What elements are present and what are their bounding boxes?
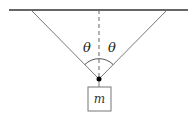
angle-label-left: θ xyxy=(83,40,91,55)
angle-label-right: θ xyxy=(108,40,116,55)
physics-diagram: θ θ m xyxy=(0,0,193,120)
knot xyxy=(97,77,102,82)
mass-label: m xyxy=(94,92,105,106)
